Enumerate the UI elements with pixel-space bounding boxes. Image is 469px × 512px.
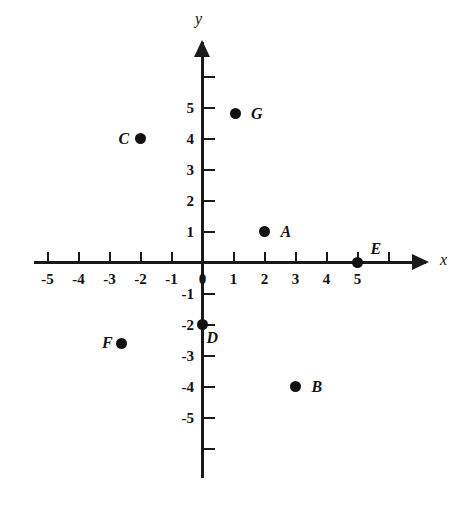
y-axis-tick-label: 2 [160,194,194,209]
y-axis-tick-label: 1 [160,225,194,240]
y-axis-tick-label: 3 [160,163,194,178]
point-label-g: G [251,106,263,122]
y-axis-tick [204,138,215,140]
point-label-c: C [119,131,130,147]
x-axis-tick-label: -1 [157,272,187,287]
plotted-point-f [116,338,127,349]
y-axis-tick [204,200,215,202]
point-label-e: E [371,241,382,257]
y-axis-tick [204,107,215,109]
x-axis-tick [171,252,173,263]
x-axis-tick [326,252,328,263]
x-axis-tick [109,252,111,263]
x-axis-tick [233,252,235,263]
plotted-point-g [230,108,241,119]
y-axis-tick [204,355,215,357]
y-axis-tick-label: -5 [160,411,194,426]
x-axis-tick [388,252,390,263]
y-axis-arrowhead [194,40,210,57]
y-axis-tick-label: 5 [160,101,194,116]
x-axis-tick-label: 3 [281,272,311,287]
x-axis-tick-label: 5 [343,272,373,287]
y-axis-tick [204,293,215,295]
x-axis-tick-label: -2 [126,272,156,287]
x-axis-tick-label: -4 [64,272,94,287]
plotted-point-c [135,133,146,144]
y-axis-tick [204,231,215,233]
x-axis-tick [47,252,49,263]
y-axis-tick-label: -4 [160,380,194,395]
x-axis-tick-label: -5 [33,272,63,287]
y-axis-tick [204,386,215,388]
y-axis-tick-label: 4 [160,132,194,147]
x-axis-tick [78,252,80,263]
point-label-b: B [312,379,323,395]
y-axis-tick-label: -2 [160,318,194,333]
plotted-point-e [352,257,363,268]
y-axis-tick-label: -3 [160,349,194,364]
x-axis-tick [295,252,297,263]
x-axis-tick-label: -3 [95,272,125,287]
x-axis-tick-label: 0 [188,272,218,287]
x-axis-tick [140,252,142,263]
x-axis-tick [264,252,266,263]
y-axis-tick [204,417,215,419]
y-axis-tick [204,76,215,78]
x-axis-line [34,261,426,264]
point-label-a: A [281,224,292,240]
x-axis-tick-label: 1 [219,272,249,287]
y-axis-tick [204,169,215,171]
point-label-d: D [207,330,219,346]
plotted-point-b [290,381,301,392]
x-axis-arrowhead [412,254,429,270]
y-axis-label: y [195,10,202,28]
x-axis-label: x [440,251,447,269]
x-axis-tick-label: 2 [250,272,280,287]
y-axis-tick [204,448,215,450]
y-axis-tick-label: -1 [160,287,194,302]
point-label-f: F [102,335,113,351]
plotted-point-a [259,226,270,237]
coordinate-plane-figure: x y -5-4-3-2-101234554321-1-2-3-4-5 ABCD… [0,0,469,512]
x-axis-tick-label: 4 [312,272,342,287]
